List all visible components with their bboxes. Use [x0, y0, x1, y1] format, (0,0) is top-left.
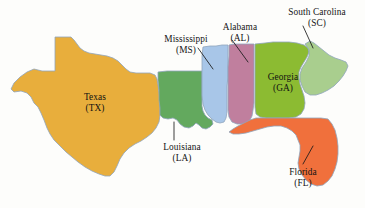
map-figure: Texas (TX) Louisiana (LA) Mississippi (M… — [0, 0, 365, 208]
state-label-georgia-name: Georgia — [256, 72, 310, 83]
state-label-texas-name: Texas — [67, 92, 123, 103]
state-label-alabama-name: Alabama — [212, 22, 268, 33]
state-label-alabama[interactable]: Alabama (AL) — [212, 22, 268, 44]
state-label-south-carolina-name: South Carolina — [276, 7, 358, 18]
state-label-louisiana-name: Louisiana — [151, 142, 213, 153]
state-label-florida-name: Florida — [277, 167, 329, 178]
state-label-georgia[interactable]: Georgia (GA) — [256, 72, 310, 94]
state-label-florida-abbr: (FL) — [277, 178, 329, 189]
state-label-mississippi-name: Mississippi — [152, 34, 220, 45]
state-shape-mississippi[interactable] — [202, 45, 228, 123]
state-label-south-carolina[interactable]: South Carolina (SC) — [276, 7, 358, 29]
state-label-south-carolina-abbr: (SC) — [276, 18, 358, 29]
state-label-georgia-abbr: (GA) — [256, 83, 310, 94]
state-label-louisiana-abbr: (LA) — [151, 153, 213, 164]
state-label-mississippi-abbr: (MS) — [152, 45, 220, 56]
state-label-alabama-abbr: (AL) — [212, 33, 268, 44]
state-label-texas-abbr: (TX) — [67, 103, 123, 114]
state-shape-alabama[interactable] — [228, 44, 254, 124]
state-label-florida[interactable]: Florida (FL) — [277, 167, 329, 189]
state-label-louisiana[interactable]: Louisiana (LA) — [151, 142, 213, 164]
state-label-mississippi[interactable]: Mississippi (MS) — [152, 34, 220, 56]
state-label-texas[interactable]: Texas (TX) — [67, 92, 123, 114]
